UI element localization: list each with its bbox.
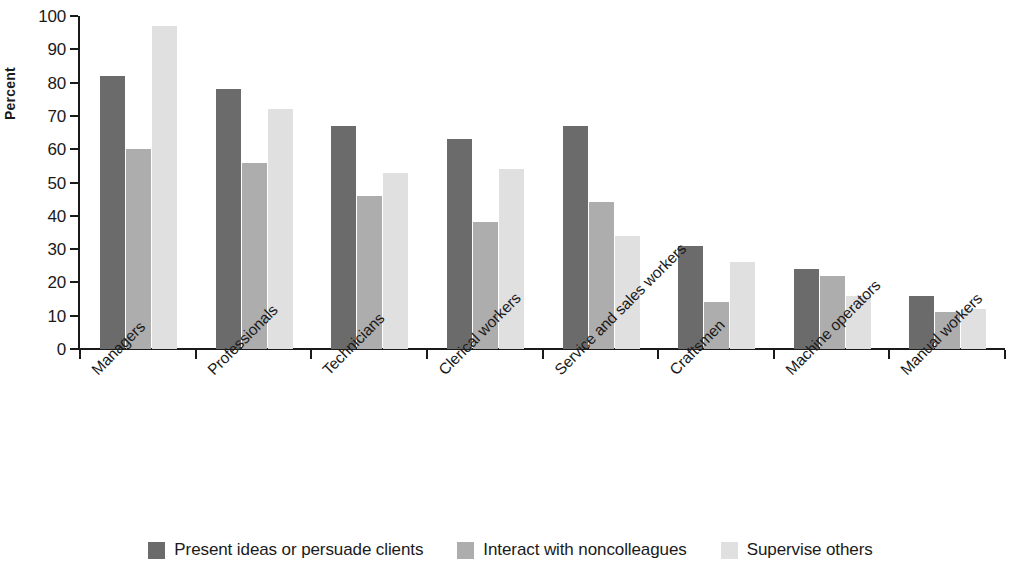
bar — [563, 126, 588, 349]
x-tick-mark — [1004, 350, 1006, 359]
bar-group — [427, 16, 543, 349]
y-axis-title: Percent — [2, 67, 18, 120]
legend-label: Present ideas or persuade clients — [174, 540, 423, 560]
bar — [216, 89, 241, 349]
chart-legend: Present ideas or persuade clientsInterac… — [0, 540, 1021, 560]
y-tick-label: 0 — [26, 341, 66, 358]
legend-swatch-icon — [457, 542, 474, 559]
x-tick-mark — [773, 350, 775, 359]
bar-group — [80, 16, 196, 349]
y-tick-mark — [70, 148, 78, 150]
y-tick-mark — [70, 15, 78, 17]
y-tick-mark — [70, 248, 78, 250]
y-tick-label: 90 — [26, 41, 66, 58]
x-tick-mark — [195, 350, 197, 359]
y-tick-mark — [70, 48, 78, 50]
bar-group — [889, 16, 1005, 349]
x-tick-mark — [79, 350, 81, 359]
y-tick-mark — [70, 281, 78, 283]
x-tick-mark — [310, 350, 312, 359]
bar — [100, 76, 125, 349]
y-tick-label: 30 — [26, 241, 66, 258]
y-tick-label: 50 — [26, 175, 66, 192]
x-tick-mark — [542, 350, 544, 359]
y-tick-label: 40 — [26, 208, 66, 225]
legend-label: Supervise others — [747, 540, 873, 560]
bar-group — [658, 16, 774, 349]
y-tick-mark — [70, 82, 78, 84]
legend-swatch-icon — [721, 542, 738, 559]
bar — [730, 262, 755, 349]
legend-item: Supervise others — [721, 540, 873, 560]
x-tick-mark — [426, 350, 428, 359]
y-tick-mark — [70, 215, 78, 217]
bar — [331, 126, 356, 349]
x-tick-mark — [888, 350, 890, 359]
y-tick-label: 80 — [26, 75, 66, 92]
y-tick-mark — [70, 182, 78, 184]
x-tick-mark — [657, 350, 659, 359]
y-tick-label: 10 — [26, 308, 66, 325]
legend-item: Interact with noncolleagues — [457, 540, 686, 560]
y-tick-label: 20 — [26, 274, 66, 291]
bar-group — [311, 16, 427, 349]
bar-chart: Percent 0102030405060708090100 ManagersP… — [0, 0, 1021, 577]
bar — [447, 139, 472, 349]
legend-item: Present ideas or persuade clients — [148, 540, 423, 560]
legend-label: Interact with noncolleagues — [483, 540, 686, 560]
y-tick-mark — [70, 315, 78, 317]
y-tick-mark — [70, 348, 78, 350]
bar — [152, 26, 177, 349]
y-tick-mark — [70, 115, 78, 117]
y-tick-label: 70 — [26, 108, 66, 125]
bar — [126, 149, 151, 349]
y-tick-label: 100 — [26, 8, 66, 25]
legend-swatch-icon — [148, 542, 165, 559]
y-tick-label: 60 — [26, 141, 66, 158]
bar-group — [196, 16, 312, 349]
